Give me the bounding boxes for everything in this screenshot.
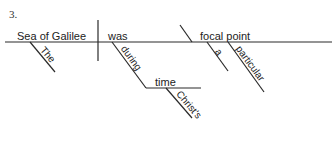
diagram-lines — [0, 0, 336, 144]
prepositional-object-time: time — [155, 77, 176, 88]
predicate-nominative-divider — [180, 25, 192, 42]
predicate-nominative-word: focal point — [200, 31, 250, 42]
verb-word: was — [108, 31, 128, 42]
subject-word: Sea of Galilee — [17, 31, 86, 42]
